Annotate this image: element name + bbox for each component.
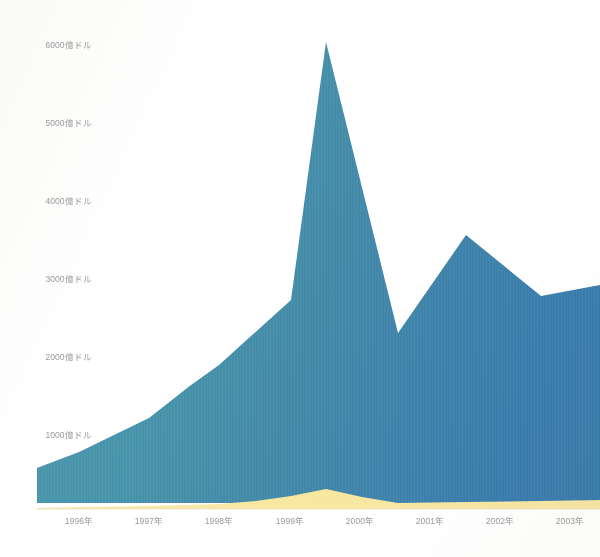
chart-root: 1000億ドル 2000億ドル 3000億ドル 4000億ドル 5000億ドル … bbox=[0, 0, 600, 557]
series-blue-texture bbox=[37, 42, 600, 503]
area-chart-plot bbox=[0, 0, 600, 557]
